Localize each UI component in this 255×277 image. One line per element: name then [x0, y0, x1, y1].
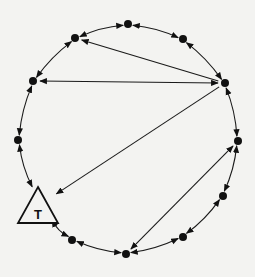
- chord-edge: [56, 87, 219, 194]
- ring-edge: [131, 238, 178, 252]
- ring-edge: [77, 241, 121, 252]
- node-dot[interactable]: [14, 136, 22, 144]
- node-dot[interactable]: [179, 35, 187, 43]
- node-dot[interactable]: [71, 34, 79, 42]
- node-dot[interactable]: [219, 192, 227, 200]
- ring-network-diagram: T: [0, 0, 255, 277]
- node-dot[interactable]: [29, 77, 37, 85]
- node-dot[interactable]: [68, 236, 76, 244]
- ring-edge: [80, 25, 123, 36]
- chord-edge: [82, 40, 219, 81]
- node-dot[interactable]: [124, 20, 132, 28]
- ring-edge: [19, 86, 32, 135]
- node-dot[interactable]: [122, 250, 130, 258]
- ring-edge: [19, 145, 32, 187]
- ring-edge: [226, 88, 237, 136]
- ring-edge: [186, 200, 219, 234]
- node-dot[interactable]: [179, 233, 187, 241]
- ring-edge: [133, 25, 178, 37]
- terminal-node-T[interactable]: T: [18, 187, 58, 223]
- node-dot[interactable]: [234, 137, 242, 145]
- terminal-label: T: [34, 207, 42, 222]
- node-dot[interactable]: [221, 79, 229, 87]
- ring-edge: [36, 42, 71, 78]
- ring-edge: [186, 43, 221, 80]
- chord-edge: [40, 81, 218, 83]
